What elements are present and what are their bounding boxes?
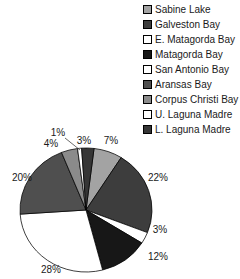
legend-item-label: U. Laguna Madre (155, 107, 232, 122)
slice-percent-label-u-laguna-madre: 1% (51, 127, 66, 138)
legend-swatch (143, 95, 152, 104)
legend-item-corpus-christi-bay: Corpus Christi Bay (143, 92, 238, 107)
legend-item-label: San Antonio Bay (155, 62, 229, 77)
legend-swatch (143, 50, 152, 59)
legend-item-label: Corpus Christi Bay (155, 92, 238, 107)
slice-percent-label-aransas-bay: 20% (12, 172, 32, 183)
legend-swatch (143, 35, 152, 44)
legend-item-u-laguna-madre: U. Laguna Madre (143, 107, 238, 122)
legend-item-aransas-bay: Aransas Bay (143, 77, 238, 92)
legend-swatch (143, 80, 152, 89)
slice-percent-label-e-matagorda-bay: 3% (153, 224, 168, 235)
slice-percent-label-l-laguna-madre: 3% (77, 135, 92, 146)
legend-item-label: L. Laguna Madre (155, 122, 231, 137)
legend-item-l-laguna-madre: L. Laguna Madre (143, 122, 238, 137)
legend-item-matagorda-bay: Matagorda Bay (143, 47, 238, 62)
legend-item-galveston-bay: Galveston Bay (143, 17, 238, 32)
legend-item-sabine-lake: Sabine Lake (143, 2, 238, 17)
legend-swatch (143, 20, 152, 29)
legend-swatch (143, 65, 152, 74)
slice-percent-label-san-antonio-bay: 28% (41, 264, 61, 275)
legend-item-label: Matagorda Bay (155, 47, 223, 62)
slice-percent-label-galveston-bay: 22% (148, 172, 168, 183)
legend-swatch (143, 5, 152, 14)
legend: Sabine Lake Galveston Bay E. Matagorda B… (143, 2, 238, 137)
slice-percent-label-corpus-christi-bay: 4% (44, 138, 59, 149)
legend-item-label: Galveston Bay (155, 17, 220, 32)
legend-swatch (143, 110, 152, 119)
legend-item-e-matagorda-bay: E. Matagorda Bay (143, 32, 238, 47)
slice-percent-label-matagorda-bay: 12% (148, 251, 168, 262)
legend-item-label: Sabine Lake (155, 2, 211, 17)
slice-percent-label-sabine-lake: 7% (104, 135, 119, 146)
legend-item-label: E. Matagorda Bay (155, 32, 235, 47)
legend-item-label: Aransas Bay (155, 77, 212, 92)
legend-item-san-antonio-bay: San Antonio Bay (143, 62, 238, 77)
legend-swatch (143, 125, 152, 134)
